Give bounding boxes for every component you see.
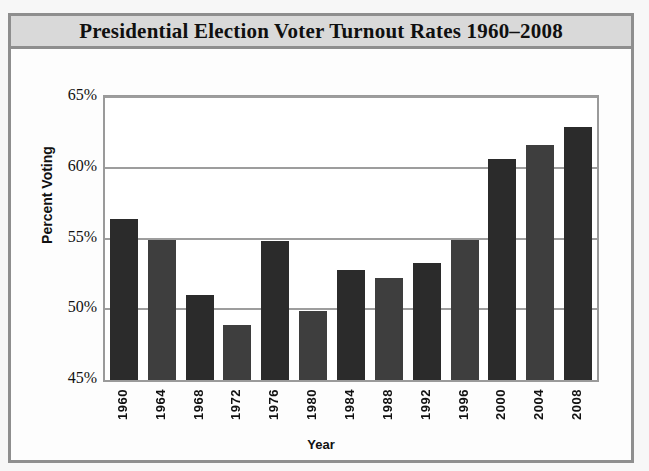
chart-title-band: Presidential Election Voter Turnout Rate… (11, 16, 631, 49)
bar-1996 (451, 240, 479, 380)
y-axis-label: Percent Voting (39, 115, 55, 275)
gridline-60 (105, 167, 597, 169)
x-tick-1996: 1996 (456, 389, 471, 420)
bar-2008 (564, 127, 592, 380)
bar-1992 (413, 263, 441, 380)
bar-1960 (110, 219, 138, 380)
x-tick-1984: 1984 (342, 389, 357, 420)
chart-plot-area: Percent Voting 45%50%55%60%65% 196019641… (11, 49, 631, 460)
gridline-65 (105, 96, 597, 98)
gridline-55 (105, 238, 597, 240)
x-tick-1992: 1992 (418, 389, 433, 420)
chart-title: Presidential Election Voter Turnout Rate… (79, 19, 563, 44)
y-tick-50: 50% (39, 298, 97, 316)
x-tick-1968: 1968 (191, 389, 206, 420)
y-tick-65: 65% (39, 86, 97, 104)
x-tick-1980: 1980 (304, 389, 319, 420)
bar-1972 (223, 325, 251, 380)
y-tick-55: 55% (39, 228, 97, 246)
x-tick-1972: 1972 (228, 389, 243, 420)
bar-1976 (261, 241, 289, 380)
x-tick-2004: 2004 (531, 389, 546, 420)
bar-1984 (337, 270, 365, 380)
x-tick-1960: 1960 (115, 389, 130, 420)
chart-figure: Presidential Election Voter Turnout Rate… (8, 13, 634, 463)
bar-2004 (526, 145, 554, 380)
x-axis-label: Year (11, 437, 631, 452)
x-tick-2000: 2000 (493, 389, 508, 420)
bar-2000 (488, 159, 516, 380)
x-tick-2008: 2008 (569, 389, 584, 420)
bar-1980 (299, 311, 327, 380)
bar-1964 (148, 240, 176, 380)
x-tick-1976: 1976 (266, 389, 281, 420)
x-tick-1988: 1988 (380, 389, 395, 420)
plot-box (103, 95, 599, 382)
y-tick-45: 45% (39, 369, 97, 387)
x-tick-1964: 1964 (153, 389, 168, 420)
bar-1968 (186, 295, 214, 380)
bar-1988 (375, 278, 403, 380)
y-tick-60: 60% (39, 157, 97, 175)
